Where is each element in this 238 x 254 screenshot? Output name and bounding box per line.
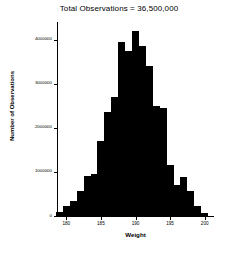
x-tick-label: 190 [132,222,140,227]
y-tick-label: 2000000 [35,125,52,129]
histogram-bar [70,201,77,216]
x-tick-mark [136,217,137,220]
x-tick-mark [205,217,206,220]
x-tick-label: 185 [97,222,105,227]
histogram-bar [139,46,146,216]
y-tick-label: 1000000 [35,169,52,173]
histogram-bar [160,108,167,216]
x-tick-mark [101,217,102,220]
chart-title: Total Observations = 36,500,000 [0,4,238,13]
x-tick-label: 200 [201,222,209,227]
histogram-bar [97,141,104,216]
histogram-bar [153,106,160,216]
x-tick-label: 195 [166,222,174,227]
y-tick-label: 0 [50,214,52,218]
histogram-bar [167,165,174,216]
x-tick-mark [170,217,171,220]
histogram-bar [77,191,84,216]
x-tick-mark [66,217,67,220]
y-tick-mark [54,216,57,217]
histogram-bar [104,112,111,216]
histogram-bar [187,191,194,216]
histogram-figure: Total Observations = 36,500,000 01000000… [0,0,238,254]
histogram-bar [194,206,201,216]
histogram-bar [91,174,98,216]
x-axis-title: Weight [57,231,214,238]
histogram-bar [132,31,139,216]
histogram-bar [174,185,181,216]
histogram-bar [146,66,153,216]
histogram-bar [180,177,187,216]
y-tick-mark [54,128,57,129]
histogram-bar [201,213,208,216]
histogram-bar [111,97,118,216]
y-tick-mark [54,84,57,85]
histogram-bars [58,22,213,216]
histogram-bar [63,206,70,216]
x-tick-label: 180 [62,222,70,227]
histogram-bar [56,212,63,216]
y-axis-title: Number of Observations [9,46,15,166]
histogram-bar [118,42,125,216]
y-tick-mark [54,172,57,173]
plot-area [58,22,213,216]
histogram-bar [84,176,91,216]
y-tick-label: 4000000 [35,37,52,41]
y-tick-mark [54,40,57,41]
histogram-bar [125,51,132,216]
y-tick-label: 3000000 [35,81,52,85]
